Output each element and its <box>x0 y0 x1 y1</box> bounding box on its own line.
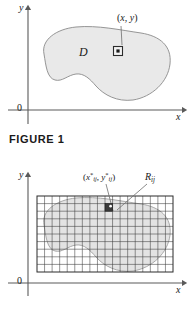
bottom-y-axis-label: y <box>19 170 23 180</box>
rij-subscript: ij <box>151 176 155 184</box>
bottom-panel <box>8 176 183 296</box>
highlight-cell-rij <box>105 204 113 212</box>
top-y-axis-label: y <box>19 3 23 13</box>
bottom-x-axis-label: x <box>176 285 180 295</box>
sample-point-label: (x*ij, y*ij) <box>83 172 115 183</box>
point-xy-label: (x, y) <box>117 13 138 23</box>
sample-point-dot <box>109 205 112 208</box>
top-x-axis-label: x <box>176 112 180 122</box>
top-panel <box>8 9 183 124</box>
rectangle-rij-label: Rij <box>145 172 155 184</box>
paren-close: ) <box>134 12 137 23</box>
bottom-origin-label: 0 <box>17 276 22 286</box>
star-paren-close: ) <box>112 172 115 182</box>
point-marker-dot <box>116 49 119 52</box>
figure-caption: FIGURE 1 <box>9 133 65 145</box>
region-d-label: D <box>79 46 88 58</box>
figure-container: y x 0 D (x, y) FIGURE 1 y x 0 (x*ij, y*i… <box>0 0 192 314</box>
figure-canvas <box>0 0 192 314</box>
region-d-shape <box>44 27 171 101</box>
top-origin-label: 0 <box>17 103 22 113</box>
